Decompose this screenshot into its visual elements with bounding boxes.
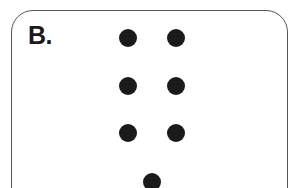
dot-row2-right xyxy=(167,77,185,95)
dot-row4-center xyxy=(143,173,161,188)
dot-row3-left xyxy=(119,124,137,142)
figure-panel-b: B. xyxy=(0,0,299,188)
dot-row1-left xyxy=(119,29,137,47)
rounded-rectangle-panel xyxy=(11,10,288,188)
dot-row3-right xyxy=(167,124,185,142)
dot-row1-right xyxy=(167,29,185,47)
dot-row2-left xyxy=(119,77,137,95)
panel-label: B. xyxy=(28,23,52,48)
